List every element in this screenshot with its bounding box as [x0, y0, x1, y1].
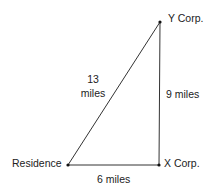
node-residence-dot [66, 163, 69, 166]
edge-label-13-unit: miles [78, 87, 108, 99]
node-xcorp-dot [157, 163, 160, 166]
edge-label-13-value: 13 [78, 73, 108, 85]
node-ycorp-dot [158, 20, 161, 23]
edge-xcorp-ycorp [159, 22, 160, 165]
node-label-xcorp: X Corp. [164, 157, 200, 169]
edge-label-13-miles: 13 miles [78, 73, 108, 99]
node-label-ycorp: Y Corp. [168, 12, 203, 24]
node-label-residence: Residence [12, 157, 62, 169]
edge-label-9-miles: 9 miles [166, 88, 199, 100]
edge-label-6-miles: 6 miles [97, 173, 130, 185]
